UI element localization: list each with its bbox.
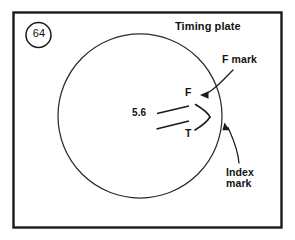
- degree-value-label: 5.6: [132, 108, 146, 119]
- figure-number-label: 64: [28, 28, 50, 40]
- index-mark-callout-label: Indexmark: [226, 167, 254, 190]
- index-mark-arrowhead: [222, 123, 229, 131]
- f-mark-callout-label: F mark: [222, 54, 257, 65]
- f-mark-arrowhead: [200, 91, 209, 99]
- f-tick-label: F: [185, 87, 192, 98]
- index-mark-line-2: mark: [226, 177, 252, 189]
- index-mark-leader-line: [228, 128, 239, 164]
- index-mark-lower-arc: [195, 117, 210, 130]
- diagram-title: Timing plate: [175, 21, 241, 33]
- figure-root: 64 Timing plate F mark Indexmark F T 5.6: [0, 0, 295, 240]
- index-mark-line-1: Index: [226, 166, 254, 178]
- index-mark-upper-arc: [196, 105, 211, 118]
- figure-border: [14, 13, 282, 228]
- f-tick-mark: [157, 106, 189, 114]
- t-tick-label: T: [185, 128, 192, 139]
